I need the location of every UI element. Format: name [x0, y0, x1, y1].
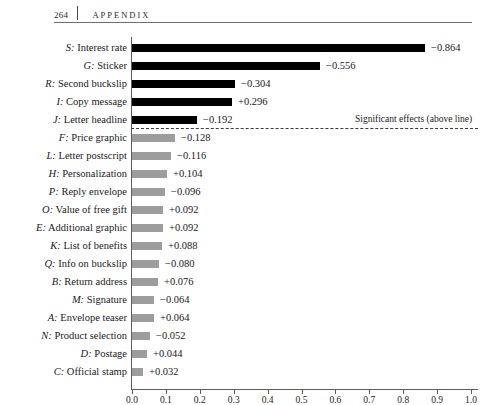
bar-row: D: Postage+0.044 [0, 345, 503, 363]
bar-row: K: List of benefits+0.088 [0, 237, 503, 255]
bar-row-label: H: Personalization [49, 165, 127, 183]
x-axis-tick [471, 390, 472, 394]
bar [132, 116, 197, 124]
bar-value-label: −0.304 [241, 75, 271, 93]
bar-row-name: Price graphic [69, 132, 127, 143]
bar-row-label: M: Signature [72, 291, 127, 309]
bar-value-label: −0.192 [203, 111, 233, 129]
bar-row-label: A: Envelope teaser [48, 309, 127, 327]
bar-rows: S: Interest rate−0.864G: Sticker−0.556R:… [0, 39, 503, 381]
bar [132, 224, 163, 232]
x-axis-line [131, 389, 478, 390]
bar-row-key: R: [45, 78, 55, 89]
bar [132, 332, 150, 340]
bar-row-key: K: [50, 240, 61, 251]
bar-row: R: Second buckslip−0.304 [0, 75, 503, 93]
bar-row: A: Envelope teaser+0.064 [0, 309, 503, 327]
bar-row-name: Additional graphic [46, 222, 127, 233]
bar-row: E: Additional graphic+0.092 [0, 219, 503, 237]
bar [132, 98, 232, 106]
bar-value-label: −0.052 [156, 327, 186, 345]
bar [132, 260, 159, 268]
bar-row-label: L: Letter postscript [47, 147, 128, 165]
bar-value-label: +0.044 [153, 345, 183, 363]
bar [132, 206, 163, 214]
x-axis-tick [369, 390, 370, 394]
bar-value-label: −0.864 [431, 39, 461, 57]
bar-value-label: −0.128 [181, 129, 211, 147]
bar-row: N: Product selection−0.052 [0, 327, 503, 345]
bar-row-key: F: [59, 132, 69, 143]
bar-value-label: −0.080 [165, 255, 195, 273]
bar-row-name: Signature [84, 294, 127, 305]
bar-row-label: S: Interest rate [66, 39, 127, 57]
x-axis-tick [302, 390, 303, 394]
bar-value-label: +0.076 [164, 273, 194, 291]
bar-row-name: Official stamp [64, 366, 127, 377]
bar-row-label: E: Additional graphic [36, 219, 127, 237]
bar [132, 278, 158, 286]
bar-row-key: P: [49, 186, 59, 197]
bar-row-name: Reply envelope [59, 186, 127, 197]
bar [132, 152, 171, 160]
bar-row-name: Personalization [60, 168, 127, 179]
bar [132, 62, 320, 70]
bar-row-label: C: Official stamp [54, 363, 127, 381]
bar-value-label: −0.116 [177, 147, 206, 165]
bar-row-label: I: Copy message [56, 93, 127, 111]
bar [132, 170, 167, 178]
bar-row-name: Product selection [52, 330, 127, 341]
bar-row: H: Personalization+0.104 [0, 165, 503, 183]
bar [132, 80, 235, 88]
bar-row-key: M: [72, 294, 84, 305]
bar-row-key: A: [48, 312, 58, 323]
bar-value-label: +0.064 [160, 309, 190, 327]
running-head-rule [54, 22, 472, 23]
bar-row-name: Second buckslip [55, 78, 127, 89]
bar-row-key: E: [36, 222, 46, 233]
bar-row-name: Letter headline [61, 114, 127, 125]
bar-value-label: −0.064 [160, 291, 190, 309]
x-axis-tick [166, 390, 167, 394]
x-axis-tick [268, 390, 269, 394]
bar-row-label: R: Second buckslip [45, 75, 127, 93]
bar-value-label: +0.092 [169, 219, 199, 237]
bar-row-key: B: [52, 276, 62, 287]
bar-row-key: H: [49, 168, 60, 179]
bar-row-key: C: [54, 366, 65, 377]
bar-value-label: +0.104 [173, 165, 203, 183]
bar [132, 242, 162, 250]
bar-row-label: J: Letter headline [53, 111, 127, 129]
x-axis-tick [335, 390, 336, 394]
bar-row: P: Reply envelope−0.096 [0, 183, 503, 201]
bar-row-name: Copy message [63, 96, 127, 107]
bar-row: Q: Info on buckslip−0.080 [0, 255, 503, 273]
bar-row: M: Signature−0.064 [0, 291, 503, 309]
bar-row-label: G: Sticker [84, 57, 127, 75]
bar [132, 314, 154, 322]
bar-row: L: Letter postscript−0.116 [0, 147, 503, 165]
bar-value-label: +0.088 [168, 237, 198, 255]
bar [132, 350, 147, 358]
running-head-divider [77, 6, 78, 20]
bar-row: I: Copy message+0.296 [0, 93, 503, 111]
bar-row: B: Return address+0.076 [0, 273, 503, 291]
x-axis-tick [132, 390, 133, 394]
bar-row-name: Letter postscript [56, 150, 127, 161]
bar-row: F: Price graphic−0.128 [0, 129, 503, 147]
bar-row-label: N: Product selection [41, 327, 127, 345]
bar-row-name: Interest rate [75, 42, 127, 53]
bar-row-label: Q: Info on buckslip [44, 255, 127, 273]
bar-value-label: −0.556 [326, 57, 356, 75]
running-head-inner: 264 APPENDIX [54, 4, 150, 21]
running-head-title: APPENDIX [78, 10, 150, 20]
effects-bar-chart: S: Interest rate−0.864G: Sticker−0.556R:… [0, 28, 503, 405]
bar-row-label: B: Return address [52, 273, 127, 291]
bar-row-key: J: [53, 114, 61, 125]
bar [132, 188, 165, 196]
bar-row-name: Envelope teaser [58, 312, 127, 323]
page-number: 264 [54, 10, 77, 20]
bar-row-label: K: List of benefits [50, 237, 127, 255]
bar-row-key: L: [47, 150, 56, 161]
bar-row-key: G: [84, 60, 95, 71]
